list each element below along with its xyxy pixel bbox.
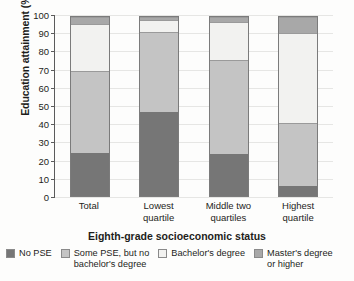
legend-swatch-icon <box>254 249 263 258</box>
legend-label: No PSE <box>19 248 52 259</box>
gridline: 0 <box>55 197 333 198</box>
stacked-bar[interactable] <box>278 16 318 197</box>
bar-segment[interactable] <box>210 22 248 61</box>
y-tick-label: 0 <box>44 192 49 203</box>
x-tick-label: Lowestquartile <box>124 200 194 223</box>
y-tick-label: 30 <box>38 137 49 148</box>
plot-area: 0102030405060708090100 <box>54 16 333 198</box>
y-tick-label: 10 <box>38 173 49 184</box>
y-axis-title: Education attainment (%) <box>19 0 31 139</box>
legend-label: Some PSE, but no bachelor's degree <box>74 248 150 270</box>
legend-swatch-icon <box>61 249 70 258</box>
y-tick-mark <box>51 197 55 198</box>
legend-swatch-icon <box>6 249 15 258</box>
bar-group <box>125 16 195 197</box>
y-tick-label: 60 <box>38 82 49 93</box>
bar-segment[interactable] <box>140 32 178 111</box>
stacked-bar-chart-figure: Education attainment (%) 010203040506070… <box>0 0 354 281</box>
legend-item[interactable]: Bachelor's degree <box>158 248 245 259</box>
legend-item[interactable]: No PSE <box>6 248 52 259</box>
bar-segment[interactable] <box>279 17 317 33</box>
stacked-bar[interactable] <box>139 16 179 197</box>
x-axis-tick-labels: TotalLowestquartileMiddle twoquartilesHi… <box>54 200 333 223</box>
x-tick-label: Middle twoquartiles <box>194 200 264 223</box>
x-axis-title: Eighth-grade socioeconomic status <box>0 230 354 242</box>
bar-group <box>264 16 334 197</box>
bar-segment[interactable] <box>71 153 109 196</box>
bar-segment[interactable] <box>71 17 109 24</box>
bar-segment[interactable] <box>279 123 317 186</box>
y-tick-label: 20 <box>38 155 49 166</box>
bar-segment[interactable] <box>279 186 317 196</box>
legend-item[interactable]: Some PSE, but no bachelor's degree <box>61 248 150 270</box>
legend-label: Master's degree or higher <box>267 248 333 270</box>
bar-segment[interactable] <box>279 33 317 123</box>
bar-segment[interactable] <box>140 112 178 196</box>
bar-group <box>194 16 264 197</box>
y-tick-label: 70 <box>38 64 49 75</box>
y-tick-label: 40 <box>38 119 49 130</box>
legend-label: Bachelor's degree <box>171 248 245 259</box>
bars-container <box>55 16 333 197</box>
bar-segment[interactable] <box>210 60 248 153</box>
stacked-bar[interactable] <box>70 16 110 197</box>
legend-item[interactable]: Master's degree or higher <box>254 248 333 270</box>
bar-segment[interactable] <box>140 20 178 32</box>
bar-segment[interactable] <box>71 24 109 71</box>
x-tick-label: Total <box>54 200 124 223</box>
y-tick-label: 100 <box>33 10 49 21</box>
stacked-bar[interactable] <box>209 16 249 197</box>
y-tick-label: 90 <box>38 28 49 39</box>
x-tick-label: Highestquartile <box>263 200 333 223</box>
chart-legend: No PSESome PSE, but no bachelor's degree… <box>6 248 350 270</box>
bar-segment[interactable] <box>210 154 248 196</box>
legend-swatch-icon <box>158 249 167 258</box>
y-tick-label: 80 <box>38 46 49 57</box>
y-tick-label: 50 <box>38 101 49 112</box>
bar-segment[interactable] <box>71 71 109 153</box>
bar-group <box>55 16 125 197</box>
